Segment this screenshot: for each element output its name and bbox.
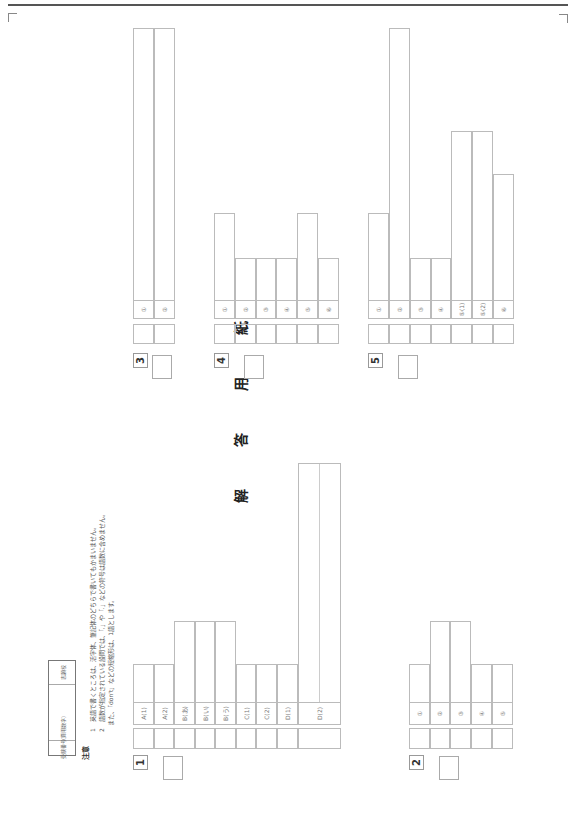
answer-column-5-2[interactable] [389, 28, 410, 301]
score-cell [450, 728, 471, 749]
note-2-cont: また、「don't」などの短縮形は、1語とします。 [106, 597, 115, 732]
label-cell: ① [409, 702, 430, 725]
label-cell: ③ [410, 300, 431, 319]
answer-column-5-6[interactable] [493, 174, 514, 301]
label-cell: C(2) [256, 702, 277, 725]
label-cell: B(い) [195, 702, 215, 725]
answer-column-2-1[interactable] [409, 664, 430, 703]
answer-column-4-5[interactable] [297, 213, 318, 301]
answer-column-4-3[interactable] [256, 258, 276, 301]
answer-column-2-3[interactable] [450, 621, 471, 703]
score-cell [276, 324, 297, 344]
score-cell [431, 324, 451, 344]
section-score-box-2[interactable] [439, 756, 459, 780]
answer-column-3-1[interactable] [133, 28, 154, 301]
school-label: 志願校 [59, 665, 66, 680]
section-score-box-4[interactable] [244, 355, 264, 379]
label-cell: ⑥ [493, 300, 514, 319]
score-cell [236, 728, 256, 749]
label-cell: ⑤ [492, 702, 513, 725]
score-cell [133, 324, 154, 344]
answer-column-1-d2[interactable] [298, 463, 341, 703]
answer-column-5-5-2[interactable] [472, 131, 493, 301]
score-cell [277, 728, 298, 749]
label-cell: ⑤(1) [451, 300, 472, 319]
label-cell: ④ [431, 300, 451, 319]
answer-column-1-d1[interactable] [277, 664, 298, 703]
score-cell [174, 728, 195, 749]
crop-mark-top-left [8, 13, 17, 22]
score-cell [471, 728, 492, 749]
label-cell: ③ [256, 300, 276, 319]
label-cell: ④ [471, 702, 492, 725]
label-cell: C(1) [236, 702, 256, 725]
answer-column-4-4[interactable] [276, 258, 297, 301]
score-cell [492, 728, 513, 749]
score-cell [154, 324, 175, 344]
answer-column-5-1[interactable] [368, 213, 389, 301]
exam-number-input[interactable]: （算用数字） [49, 685, 75, 741]
answer-column-5-3[interactable] [410, 258, 431, 301]
score-cell [368, 324, 389, 344]
label-cell: A(1) [133, 702, 154, 725]
section-number-2: 2 [409, 755, 424, 770]
label-cell: B(あ) [174, 702, 195, 725]
label-cell: ② [389, 300, 410, 319]
school-label-cell: 志願校 [49, 661, 75, 685]
column-divider [319, 464, 320, 702]
label-cell: ⑥ [318, 300, 339, 319]
top-rule [8, 4, 568, 6]
score-cell [430, 728, 450, 749]
score-cell [493, 324, 514, 344]
score-cell [214, 324, 235, 344]
label-cell: ④ [276, 300, 297, 319]
answer-column-4-1[interactable] [214, 213, 235, 301]
score-cell [410, 324, 431, 344]
score-cell [133, 728, 154, 749]
answer-column-2-5[interactable] [492, 664, 513, 703]
label-cell: ① [133, 300, 154, 319]
section-score-box-3[interactable] [152, 355, 172, 379]
score-cell [235, 324, 256, 344]
label-cell: B(う) [215, 702, 236, 725]
label-cell: ③ [450, 702, 471, 725]
notes-label: 注意 [80, 746, 90, 760]
score-cell [389, 324, 410, 344]
score-cell [318, 324, 339, 344]
label-cell: ⑤ [297, 300, 318, 319]
answer-column-5-5-1[interactable] [451, 131, 472, 301]
answer-column-1-c1[interactable] [236, 664, 256, 703]
score-cell [256, 324, 276, 344]
notes-block: 注意 1 英語で書くところは、活字体、筆記体のどちらで書いてもかまいません。 2… [76, 470, 116, 760]
score-cell [298, 728, 341, 749]
section-number-3: 3 [133, 353, 148, 368]
score-cell [256, 728, 277, 749]
section-number-4: 4 [214, 353, 229, 368]
answer-column-5-4[interactable] [431, 258, 451, 301]
score-cell [297, 324, 318, 344]
answer-column-4-6[interactable] [318, 258, 339, 301]
answer-column-3-2[interactable] [154, 28, 175, 301]
answer-column-1-a2[interactable] [154, 664, 174, 703]
label-cell: ① [214, 300, 235, 319]
score-cell [451, 324, 472, 344]
section-score-box-1[interactable] [163, 756, 183, 780]
answer-column-2-4[interactable] [471, 664, 492, 703]
note-2: 2 語数が指定されている設問では、「,」や「.」などの符号は語数に含めません。 [97, 511, 106, 732]
section-score-box-5[interactable] [398, 355, 418, 379]
score-cell [472, 324, 493, 344]
answer-column-2-2[interactable] [430, 621, 450, 703]
score-cell [195, 728, 215, 749]
answer-column-4-2[interactable] [235, 258, 256, 301]
answer-column-1-bu[interactable] [215, 621, 236, 703]
answer-column-1-ba[interactable] [174, 621, 195, 703]
section-number-5: 5 [368, 353, 383, 368]
exam-number-box: 志願校 （算用数字） 受験番号 [48, 660, 76, 756]
answer-column-1-bi[interactable] [195, 621, 215, 703]
score-cell [409, 728, 430, 749]
answer-column-1-a1[interactable] [133, 664, 154, 703]
section-number-1: 1 [133, 755, 148, 770]
exam-number-label: 受験番号 [59, 738, 66, 758]
answer-column-1-c2[interactable] [256, 664, 277, 703]
label-cell: ⑤(2) [472, 300, 493, 319]
